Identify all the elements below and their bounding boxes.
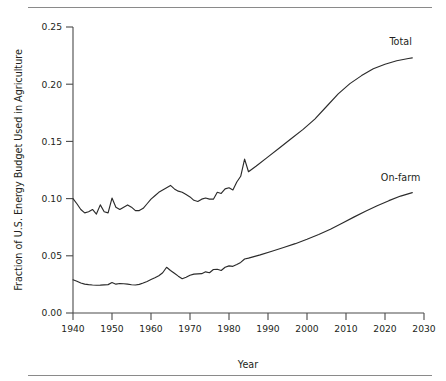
series-layer xyxy=(73,58,412,285)
y-tick-label: 0.10 xyxy=(42,193,63,204)
line-chart: 0.000.050.100.150.200.25 194019501960197… xyxy=(0,0,446,381)
x-tick-label: 1990 xyxy=(256,323,280,334)
y-tick-label: 0.20 xyxy=(42,79,63,90)
x-tick-label: 1950 xyxy=(100,323,124,334)
x-axis-title: Year xyxy=(237,359,258,370)
y-axis: 0.000.050.100.150.200.25 xyxy=(42,21,73,318)
y-tick-label: 0.15 xyxy=(42,136,63,147)
figure-container: 0.000.050.100.150.200.25 194019501960197… xyxy=(0,0,446,381)
x-tick-label: 1970 xyxy=(178,323,202,334)
series-label-total: Total xyxy=(388,36,411,47)
x-tick-label: 2010 xyxy=(334,323,358,334)
x-tick-label: 1940 xyxy=(61,323,85,334)
y-tick-label: 0.25 xyxy=(42,21,63,32)
series-line-total xyxy=(73,58,412,214)
y-axis-title: Fraction of U.S. Energy Budget Used in A… xyxy=(13,49,24,291)
y-tick-label: 0.00 xyxy=(42,307,63,318)
x-axis: 1940195019601970198019902000201020202030 xyxy=(61,313,436,334)
x-tick-label: 2020 xyxy=(373,323,397,334)
x-tick-label: 2030 xyxy=(412,323,436,334)
x-tick-label: 1980 xyxy=(217,323,241,334)
series-label-on-farm: On-farm xyxy=(381,172,420,183)
x-tick-label: 2000 xyxy=(295,323,319,334)
y-tick-label: 0.05 xyxy=(42,250,63,261)
series-labels: TotalOn-farm xyxy=(381,36,420,183)
x-tick-label: 1960 xyxy=(139,323,163,334)
